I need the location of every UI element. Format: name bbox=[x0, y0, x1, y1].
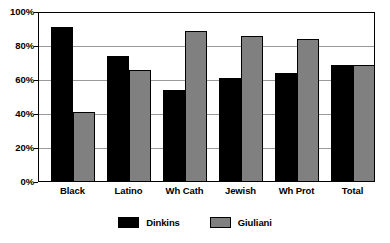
bar-dinkins-total[interactable] bbox=[331, 65, 353, 182]
x-axis: Black Latino Wh Cath Jewish Wh Prot Tota… bbox=[38, 185, 375, 201]
x-tick-label-black: Black bbox=[46, 185, 99, 197]
bar-dinkins-jewish[interactable] bbox=[219, 78, 241, 182]
legend-label-dinkins: Dinkins bbox=[146, 217, 180, 228]
bar-group-wh-cath bbox=[163, 12, 206, 182]
x-tick-label-latino: Latino bbox=[102, 185, 155, 197]
x-tick-label-wh-cath: Wh Cath bbox=[158, 185, 211, 197]
chart-legend: Dinkins Giuliani bbox=[0, 213, 390, 231]
legend-swatch-dinkins-icon bbox=[118, 217, 139, 228]
x-tick-label-wh-prot: Wh Prot bbox=[270, 185, 323, 197]
bars-layer bbox=[38, 12, 375, 182]
y-tick-label-40: 40% bbox=[0, 109, 34, 119]
bar-dinkins-wh-cath[interactable] bbox=[163, 90, 185, 182]
legend-entry-giuliani[interactable]: Giuliani bbox=[210, 217, 272, 228]
bar-giuliani-black[interactable] bbox=[73, 112, 95, 182]
bar-group-wh-prot bbox=[275, 12, 318, 182]
y-axis: 100% 80% 60% 40% 20% 0% bbox=[0, 12, 34, 182]
y-tick-label-100: 100% bbox=[0, 7, 34, 17]
x-tick-label-total: Total bbox=[326, 185, 379, 197]
bar-dinkins-wh-prot[interactable] bbox=[275, 73, 297, 182]
y-tick-mark-0 bbox=[34, 182, 38, 183]
y-tick-label-60: 60% bbox=[0, 75, 34, 85]
bar-giuliani-wh-cath[interactable] bbox=[185, 31, 207, 182]
bar-group-jewish bbox=[219, 12, 262, 182]
bar-giuliani-latino[interactable] bbox=[129, 70, 151, 182]
legend-entry-dinkins[interactable]: Dinkins bbox=[118, 217, 180, 228]
legend-swatch-giuliani-icon bbox=[210, 217, 231, 228]
bar-giuliani-jewish[interactable] bbox=[241, 36, 263, 182]
bar-dinkins-latino[interactable] bbox=[107, 56, 129, 182]
bar-group-latino bbox=[107, 12, 150, 182]
bar-giuliani-total[interactable] bbox=[353, 65, 375, 182]
bar-chart: 100% 80% 60% 40% 20% 0% bbox=[0, 0, 390, 243]
y-tick-label-80: 80% bbox=[0, 41, 34, 51]
bar-group-black bbox=[51, 12, 94, 182]
legend-label-giuliani: Giuliani bbox=[238, 217, 272, 228]
bar-giuliani-wh-prot[interactable] bbox=[297, 39, 319, 182]
bar-group-total bbox=[331, 12, 374, 182]
x-tick-label-jewish: Jewish bbox=[214, 185, 267, 197]
y-tick-label-20: 20% bbox=[0, 143, 34, 153]
bar-dinkins-black[interactable] bbox=[51, 27, 73, 182]
y-tick-label-0: 0% bbox=[0, 177, 34, 187]
